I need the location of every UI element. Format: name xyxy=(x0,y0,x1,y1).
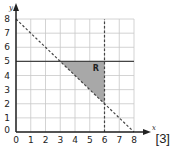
region-label: R xyxy=(93,64,99,73)
tick-labels: 012345678123456780 xyxy=(4,14,137,145)
svg-text:4: 4 xyxy=(72,135,78,145)
svg-text:8: 8 xyxy=(4,14,10,24)
svg-text:0: 0 xyxy=(13,135,19,145)
coordinate-graph: xy 012345678123456780 R xyxy=(0,0,173,149)
svg-text:3: 3 xyxy=(57,135,63,145)
svg-text:7: 7 xyxy=(116,135,122,145)
svg-text:8: 8 xyxy=(131,135,137,145)
svg-text:2: 2 xyxy=(43,135,49,145)
svg-text:4: 4 xyxy=(4,71,10,81)
svg-text:7: 7 xyxy=(4,28,10,38)
svg-text:6: 6 xyxy=(102,135,108,145)
svg-text:6: 6 xyxy=(4,42,10,52)
marks-label: [3] xyxy=(156,131,170,146)
svg-text:3: 3 xyxy=(4,85,10,95)
svg-text:5: 5 xyxy=(87,135,93,145)
svg-text:1: 1 xyxy=(4,113,10,123)
svg-text:1: 1 xyxy=(28,135,34,145)
svg-text:5: 5 xyxy=(4,56,10,66)
svg-text:2: 2 xyxy=(4,99,10,109)
svg-text:0: 0 xyxy=(4,125,10,135)
